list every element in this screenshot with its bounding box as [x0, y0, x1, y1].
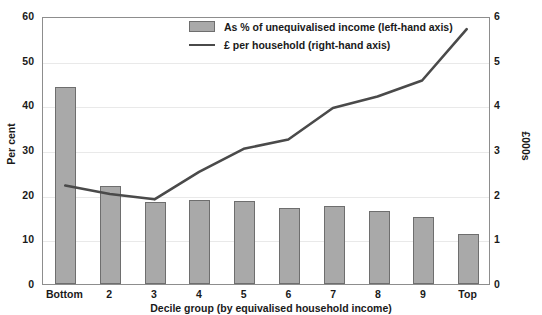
x-axis-label: Decile group (by equivalised household i… — [0, 302, 542, 314]
y-axis-label-left: Per cent — [5, 114, 17, 174]
y-axis-tick-right: 5 — [494, 56, 524, 67]
y-axis-tick-left: 0 — [4, 279, 34, 290]
y-axis-tick-right: 4 — [494, 100, 524, 111]
y-axis-tick-left: 60 — [4, 11, 34, 22]
y-axis-tick-left: 10 — [4, 234, 34, 245]
legend-line-sample-icon — [189, 44, 215, 46]
chart-figure: Per cent £000s Decile group (by equivali… — [0, 0, 542, 315]
top-text-strip — [0, 0, 542, 8]
y-axis-tick-left: 30 — [4, 145, 34, 156]
legend-item-line: £ per household (right-hand axis) — [189, 37, 453, 52]
x-axis-tick-top: Top — [438, 289, 498, 300]
y-axis-tick-left: 50 — [4, 56, 34, 67]
y-axis-tick-right: 6 — [494, 11, 524, 22]
plot-area — [42, 17, 490, 285]
y-axis-tick-right: 2 — [494, 190, 524, 201]
y-axis-tick-right: 0 — [494, 279, 524, 290]
legend-bar-swatch-icon — [189, 21, 215, 32]
y-axis-tick-right: 3 — [494, 145, 524, 156]
legend-label-bars: As % of unequivalised income (left-hand … — [224, 21, 453, 33]
y-axis-tick-right: 1 — [494, 234, 524, 245]
y-axis-tick-left: 20 — [4, 190, 34, 201]
chart-legend: As % of unequivalised income (left-hand … — [189, 19, 453, 55]
y-axis-tick-left: 40 — [4, 100, 34, 111]
legend-label-line: £ per household (right-hand axis) — [224, 39, 390, 51]
legend-item-bars: As % of unequivalised income (left-hand … — [189, 19, 453, 34]
line-series — [43, 18, 489, 284]
